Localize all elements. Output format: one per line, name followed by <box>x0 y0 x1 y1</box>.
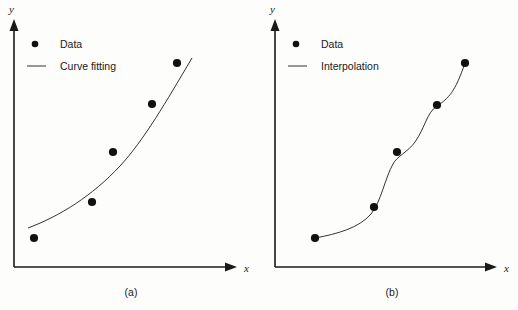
y-axis-b <box>271 19 280 267</box>
figure-container: y x Data Curve fitting (a) <box>0 0 518 310</box>
data-point <box>311 234 319 242</box>
data-points-b <box>311 59 469 242</box>
data-point <box>148 100 156 108</box>
data-point <box>109 148 117 156</box>
legend-a: Data Curve fitting <box>27 38 116 72</box>
x-axis-label-a: x <box>243 262 249 274</box>
legend-data-label-b: Data <box>321 38 343 50</box>
y-axis-label-a: y <box>8 3 14 15</box>
data-point <box>88 198 96 206</box>
legend-curve-label-a: Curve fitting <box>60 60 116 72</box>
data-points-a <box>30 59 181 242</box>
curve-fitting-line-a <box>28 58 192 228</box>
data-point <box>173 59 181 67</box>
legend-b: Data Interpolation <box>288 38 379 72</box>
x-axis-a <box>14 263 237 272</box>
y-axis-arrow-b <box>271 19 280 31</box>
data-point <box>393 148 401 156</box>
x-axis-b <box>275 263 497 272</box>
data-point <box>433 101 441 109</box>
data-point <box>370 203 378 211</box>
legend-data-label-a: Data <box>60 38 82 50</box>
data-point <box>461 59 469 67</box>
panel-a: y x Data Curve fitting (a) <box>0 0 259 310</box>
legend-marker-icon-b <box>293 41 300 48</box>
interpolation-line-b <box>315 63 465 238</box>
y-axis-arrow-a <box>10 19 19 31</box>
panel-b: y x Data Interpolation (b) <box>259 0 518 310</box>
legend-interpolation-label-b: Interpolation <box>321 60 379 72</box>
legend-marker-icon-a <box>32 41 39 48</box>
x-axis-arrow-a <box>225 263 237 272</box>
y-axis-a <box>10 19 19 267</box>
data-point <box>30 234 38 242</box>
x-axis-label-b: x <box>503 262 509 274</box>
y-axis-label-b: y <box>269 3 275 15</box>
panel-caption-b: (b) <box>386 286 399 298</box>
x-axis-arrow-b <box>485 263 497 272</box>
panel-caption-a: (a) <box>125 286 138 298</box>
